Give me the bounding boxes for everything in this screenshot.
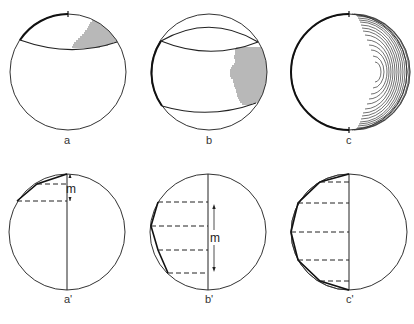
diagram-canvas: a — [0, 0, 414, 324]
hatching-b — [230, 48, 270, 104]
panel-b: b — [151, 14, 270, 146]
panel-label-b: b — [206, 134, 212, 146]
panel-label-a-prime: a' — [64, 293, 72, 305]
panel-b-prime: m b' — [150, 174, 266, 305]
panel-label-b-prime: b' — [205, 293, 213, 305]
measure-label-m-a-prime: m — [66, 182, 76, 196]
panel-label-c: c — [346, 134, 352, 146]
hatching-a — [72, 21, 130, 47]
panel-a-prime: m a' — [9, 174, 125, 305]
panel-label-c-prime: c' — [346, 293, 354, 305]
panel-c-prime: c' — [291, 174, 407, 305]
measure-label-m-b-prime: m — [210, 231, 220, 245]
panel-c: c — [291, 11, 410, 146]
hatching-c — [352, 14, 410, 130]
panel-label-a: a — [64, 134, 71, 146]
panel-a: a — [10, 11, 130, 146]
